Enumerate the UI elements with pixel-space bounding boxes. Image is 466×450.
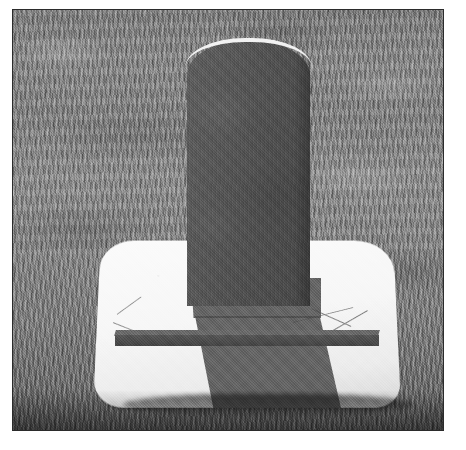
bottom-shadow-band [13, 390, 443, 430]
photograph [13, 10, 443, 430]
headstone-surface-texture [187, 41, 310, 306]
footstone-front-face [115, 335, 379, 346]
headstone-shaded-edge [294, 51, 310, 306]
headstone-arch-highlight [185, 38, 312, 72]
photo-frame [12, 9, 444, 431]
flat-footstone-bar [115, 330, 379, 347]
page-root [0, 0, 466, 450]
arched-headstone [187, 41, 310, 306]
